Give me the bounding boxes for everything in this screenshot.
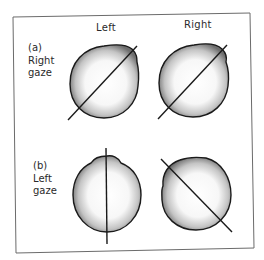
row-label-a-line-3: gaze: [28, 67, 54, 80]
gaze-diagram: [0, 0, 264, 260]
row-label-a-line-2: Right: [28, 55, 54, 68]
row-label-a: (a) Right gaze: [28, 42, 54, 80]
column-header-left: Left: [96, 22, 116, 35]
row-label-b-line-2: Left: [33, 173, 57, 186]
row-label-b: (b) Left gaze: [33, 160, 57, 198]
row-label-b-line-3: gaze: [33, 185, 57, 198]
eye-outline: [162, 157, 231, 230]
axis-line: [106, 148, 107, 244]
row-label-b-letter: (b): [33, 160, 57, 173]
column-header-right: Right: [184, 19, 212, 32]
row-label-a-letter: (a): [28, 42, 54, 55]
panel-b-right: [161, 157, 232, 232]
